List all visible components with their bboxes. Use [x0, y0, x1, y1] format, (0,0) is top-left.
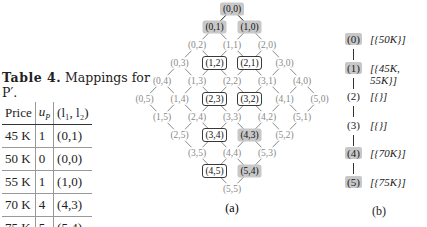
lattice-node-3-2: (3,2)	[238, 93, 262, 106]
lattice-node-0-2: (0,2)	[188, 40, 206, 51]
lattice-node-4-2: (4,2)	[258, 112, 276, 123]
lattice-edge	[168, 105, 174, 112]
lattice-edge	[308, 105, 314, 112]
lattice-edge	[273, 87, 279, 94]
lattice-edge	[238, 123, 244, 130]
lattice-node-1-4: (1,4)	[170, 94, 188, 105]
lattice-node-3-0: (3,0)	[275, 58, 293, 69]
svg-text:(4,0): (4,0)	[293, 76, 311, 87]
chain-level: (1)	[345, 62, 362, 74]
svg-text:(5,1): (5,1)	[293, 112, 311, 123]
lattice-edge	[290, 105, 296, 112]
svg-text:(3,1): (3,1)	[258, 76, 276, 87]
svg-text:(4,5): (4,5)	[205, 166, 223, 177]
lattice-edge	[238, 33, 244, 40]
lattice-node-3-1: (3,1)	[258, 76, 276, 87]
lattice-node-5-4: (5,4)	[238, 165, 262, 178]
lattice-edge	[150, 87, 156, 94]
chain-label: (b)	[372, 204, 386, 219]
svg-text:(3,2): (3,2)	[240, 94, 258, 105]
chain-set: [{75K}]	[370, 176, 406, 188]
lattice-node-0-3: (0,3)	[170, 58, 188, 69]
svg-text:(2,1): (2,1)	[240, 58, 258, 69]
lattice-node-4-5: (4,5)	[203, 165, 227, 178]
lattice-edge	[273, 141, 279, 148]
svg-text:(5,3): (5,3)	[258, 148, 276, 159]
lattice-edge	[255, 141, 261, 148]
lattice-node-1-2: (1,2)	[203, 57, 227, 70]
lattice-node-4-4: (4,4)	[223, 148, 241, 159]
lattice-node-4-1: (4,1)	[275, 94, 293, 105]
svg-text:(1,5): (1,5)	[153, 112, 171, 123]
chain-level: (3)	[345, 119, 362, 131]
lattice-node-2-5: (2,5)	[170, 130, 188, 141]
lattice-node-2-1: (2,1)	[238, 57, 262, 70]
lattice-edge	[273, 123, 279, 130]
svg-text:(5,2): (5,2)	[275, 130, 293, 141]
svg-text:(0,2): (0,2)	[188, 40, 206, 51]
lattice-node-0-5: (0,5)	[135, 94, 153, 105]
lattice-edge	[290, 123, 296, 130]
lattice-edge	[168, 87, 174, 94]
lattice-node-4-0: (4,0)	[293, 76, 311, 87]
lattice-edge	[238, 15, 244, 22]
svg-text:(1,0): (1,0)	[240, 22, 258, 33]
svg-text:(0,5): (0,5)	[135, 94, 153, 105]
lattice-node-2-2: (2,2)	[223, 76, 241, 87]
lattice-node-5-5: (5,5)	[223, 184, 241, 195]
lattice-edge	[203, 33, 209, 40]
svg-text:(3,4): (3,4)	[205, 130, 223, 141]
svg-text:(3,5): (3,5)	[188, 148, 206, 159]
lattice-node-5-3: (5,3)	[258, 148, 276, 159]
lattice-node-5-1: (5,1)	[293, 112, 311, 123]
chain-set: [{}]	[370, 90, 387, 102]
lattice-node-3-5: (3,5)	[188, 148, 206, 159]
lattice-node-1-0: (1,0)	[238, 21, 262, 34]
lattice-edge	[238, 177, 244, 184]
svg-text:(1,4): (1,4)	[170, 94, 188, 105]
lattice-node-1-1: (1,1)	[223, 40, 241, 51]
lattice-node-5-0: (5,0)	[310, 94, 328, 105]
lattice-edge	[150, 105, 156, 112]
lattice-node-5-2: (5,2)	[275, 130, 293, 141]
lattice-node-3-4: (3,4)	[203, 129, 227, 142]
lattice-node-0-0: (0,0)	[220, 3, 244, 16]
lattice-node-2-4: (2,4)	[188, 112, 206, 123]
lattice-edge	[255, 33, 261, 40]
lattice-edge	[168, 69, 174, 76]
svg-text:(2,3): (2,3)	[205, 94, 223, 105]
chain-edge	[353, 135, 354, 146]
lattice-edge	[255, 123, 261, 130]
lattice-edge	[220, 15, 226, 22]
svg-text:(0,3): (0,3)	[170, 58, 188, 69]
chain-level: (2)	[345, 90, 362, 102]
lattice-node-1-5: (1,5)	[153, 112, 171, 123]
svg-text:(2,0): (2,0)	[258, 40, 276, 51]
chain-set: [{45K, 55K}]	[370, 62, 427, 86]
lattice-edge	[290, 69, 296, 76]
svg-text:(1,3): (1,3)	[188, 76, 206, 87]
chain-edge	[353, 163, 354, 174]
lattice-edge	[273, 105, 279, 112]
lattice-node-2-0: (2,0)	[258, 40, 276, 51]
svg-text:(2,5): (2,5)	[170, 130, 188, 141]
lattice-edge	[273, 51, 279, 58]
chain-set: [{50K}]	[370, 33, 406, 45]
lattice-edge	[185, 69, 191, 76]
svg-text:(4,3): (4,3)	[240, 130, 258, 141]
svg-text:(1,1): (1,1)	[223, 40, 241, 51]
lattice-edge	[238, 141, 244, 148]
svg-text:(2,4): (2,4)	[188, 112, 206, 123]
chain-edge	[353, 49, 354, 60]
lattice-edge	[185, 105, 191, 112]
svg-text:(1,2): (1,2)	[205, 58, 223, 69]
lattice-edge	[168, 123, 174, 130]
lattice-edge	[290, 87, 296, 94]
lattice-edge	[255, 159, 261, 166]
svg-text:(5,0): (5,0)	[310, 94, 328, 105]
lattice-node-3-3: (3,3)	[223, 112, 241, 123]
chain-level: (4)	[345, 147, 362, 159]
lattice-edge	[308, 87, 314, 94]
lattice-node-0-1: (0,1)	[203, 21, 227, 34]
svg-text:(4,1): (4,1)	[275, 94, 293, 105]
